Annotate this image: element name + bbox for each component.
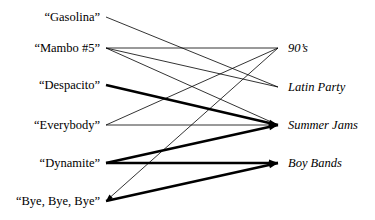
graph-edges-canvas xyxy=(0,0,375,220)
playlist-node-label-boybands: Boy Bands xyxy=(288,157,342,170)
graph-edge xyxy=(106,48,278,201)
song-node-label-everybody: “Everybody” xyxy=(34,119,100,132)
song-node-label-despacito: “Despacito” xyxy=(39,79,100,92)
graph-edge xyxy=(106,85,278,126)
graph-edge xyxy=(106,124,278,163)
bipartite-graph-diagram: “Gasolina”“Mambo #5”“Despacito”“Everybod… xyxy=(0,0,375,220)
playlist-node-label-nineties: 90’s xyxy=(288,42,308,55)
graph-edge xyxy=(106,48,278,87)
song-node-label-gasolina: “Gasolina” xyxy=(44,11,100,24)
graph-edge xyxy=(106,17,278,87)
song-node-label-byebyebye: “Bye, Bye, Bye” xyxy=(16,195,100,208)
graph-edge xyxy=(106,160,278,167)
playlist-node-label-latinparty: Latin Party xyxy=(288,81,345,94)
playlist-node-label-summerjams: Summer Jams xyxy=(288,119,358,132)
song-node-label-dynamite: “Dynamite” xyxy=(40,157,100,170)
graph-edge xyxy=(106,162,278,201)
song-node-label-mambo: “Mambo #5” xyxy=(34,42,100,55)
